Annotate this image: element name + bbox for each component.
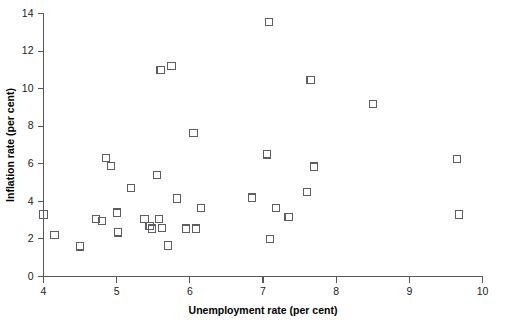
data-point-marker [76,243,83,250]
data-point-marker [183,225,190,232]
data-point-marker [263,151,270,158]
data-point-marker [197,204,204,211]
data-point-marker [303,188,310,195]
y-tick-label: 6 [28,157,34,169]
data-point-marker [455,211,462,218]
data-point-marker [158,224,165,231]
x-tick-label: 4 [41,285,47,297]
x-tick-label: 9 [406,285,412,297]
y-tick-label: 4 [28,195,34,207]
x-tick-label: 8 [333,285,339,297]
data-point-marker [168,63,175,70]
x-tick-label: 6 [187,285,193,297]
x-tick-label: 5 [114,285,120,297]
data-point-marker [285,214,292,221]
x-axis-ticks: 45678910 [41,277,489,297]
data-point-marker [267,235,274,242]
data-point-marker [156,216,163,223]
data-point-marker [107,162,114,169]
data-point-marker [157,66,164,73]
scatter-chart-figure: 02468101214 45678910 Unemployment rate (… [0,0,506,331]
scatter-plot-svg: 02468101214 45678910 Unemployment rate (… [0,0,506,331]
data-point-marker [273,204,280,211]
x-tick-label: 10 [477,285,489,297]
data-point-marker [115,229,122,236]
data-point-marker [307,77,314,84]
data-point-marker [173,195,180,202]
y-tick-label: 2 [28,232,34,244]
y-axis-title: Inflation rate (per cent) [4,88,16,202]
data-point-marker [164,242,171,249]
data-point-marker [311,163,318,170]
data-point-marker [102,155,109,162]
data-point-marker [128,185,135,192]
y-tick-label: 10 [22,82,34,94]
x-tick-label: 7 [260,285,266,297]
data-point-marker [265,18,272,25]
data-points-group [40,18,463,250]
x-axis-title: Unemployment rate (per cent) [189,304,338,316]
data-point-marker [148,225,155,232]
y-tick-label: 0 [28,270,34,282]
y-tick-label: 12 [22,44,34,56]
data-point-marker [51,232,58,239]
data-point-marker [153,171,160,178]
y-tick-label: 8 [28,119,34,131]
axis-group [44,14,483,277]
y-axis-ticks: 02468101214 [22,7,44,282]
y-tick-label: 14 [22,7,34,19]
data-point-marker [248,194,255,201]
data-point-marker [453,155,460,162]
data-point-marker [190,129,197,136]
data-point-marker [113,209,120,216]
data-point-marker [369,100,376,107]
data-point-marker [192,225,199,232]
